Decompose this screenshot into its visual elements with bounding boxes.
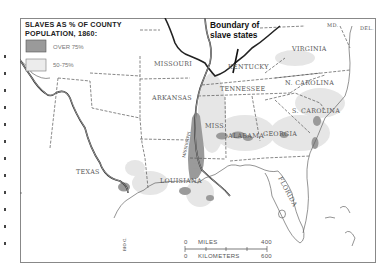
- adjacent-page-text-fragment: [2, 55, 8, 255]
- label-del: DEL.: [360, 25, 374, 31]
- scale-miles-max: 400: [261, 239, 272, 245]
- scale-km-label: KILOMETERS: [198, 253, 240, 259]
- scale-km-max: 600: [261, 253, 272, 259]
- scale-km-zero: 0: [184, 253, 188, 259]
- label-n-carolina: N. CAROLINA: [285, 79, 334, 87]
- callout-line2: slave states: [210, 30, 258, 40]
- label-missouri: MISSOURI: [154, 60, 192, 68]
- label-s-carolina: S. CAROLINA: [292, 107, 340, 115]
- legend-label-over-75: OVER 75%: [53, 44, 84, 50]
- label-miss: MISS.: [205, 122, 226, 130]
- label-louisiana: LOUISIANA: [160, 177, 202, 185]
- callout-line1: Boundary of: [210, 20, 260, 30]
- label-kentucky: KENTUCKY: [228, 63, 269, 71]
- legend-swatch-50-75: [26, 59, 46, 71]
- label-virginia: VIRGINIA: [291, 45, 327, 53]
- label-arkansas: ARKANSAS: [151, 94, 192, 102]
- map-frame: SLAVES AS % OF COUNTY POPULATION, 1860: …: [20, 18, 376, 263]
- legend-label-50-75: 50-75%: [53, 62, 74, 68]
- label-tennessee: TENNESSEE: [220, 85, 265, 93]
- legend-title-line2: POPULATION, 1860:: [25, 29, 97, 38]
- label-texas: TEXAS: [76, 168, 100, 176]
- slavery-map-1860: SLAVES AS % OF COUNTY POPULATION, 1860: …: [20, 18, 376, 263]
- legend-swatch-over-75: [26, 40, 46, 52]
- label-md: MD.: [327, 22, 339, 28]
- label-alabama: ALABAMA: [227, 132, 264, 140]
- label-georgia: GEORGIA: [263, 130, 297, 138]
- scale-miles-zero: 0: [184, 239, 188, 245]
- scale-miles-label: MILES: [198, 239, 218, 245]
- legend-title-line1: SLAVES AS % OF COUNTY: [25, 20, 122, 29]
- label-rio-grande: RIO G.: [122, 238, 127, 251]
